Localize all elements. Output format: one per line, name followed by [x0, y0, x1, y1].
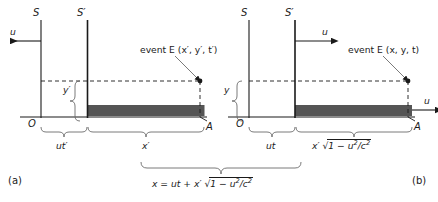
label-velocity-b-top: u	[322, 27, 328, 36]
label-event-a: event E (x′, y′, t′)	[140, 45, 217, 54]
label-total-equation: x = ut + x′ √1 − u2/c2	[152, 178, 253, 188]
figure-canvas	[0, 0, 438, 202]
label-yprime-a: y′	[63, 85, 71, 94]
label-Sprime-b: S′	[285, 8, 294, 18]
brace-xprime-a	[88, 127, 204, 137]
equation-radicand-lead: 1 −	[210, 178, 229, 189]
label-point-A-a: A	[206, 122, 213, 132]
panel-a-graphics	[10, 20, 207, 137]
label-point-A-b: A	[414, 122, 421, 132]
contracted-den-sup: 2	[366, 139, 370, 147]
label-segment-contracted: x′ √1 − u2/c2	[312, 140, 371, 150]
event-dot-b	[406, 79, 411, 84]
label-origin-a: O	[28, 119, 36, 129]
label-velocity-a: u	[10, 27, 16, 36]
brace-ut-b	[249, 127, 295, 137]
equation-lhs: x = ut + x′	[152, 178, 201, 189]
equation-den-sup: 2	[248, 177, 252, 185]
shaded-bar-a	[88, 105, 205, 116]
brace-total-x	[141, 162, 301, 174]
equation-radicand: 1 − u2/c2	[209, 177, 253, 189]
brace-contracted-b	[296, 127, 412, 137]
event-dot-a	[198, 79, 203, 84]
brace-y-b	[232, 81, 242, 121]
label-origin-b: O	[236, 119, 244, 129]
panel-tag-a: (a)	[8, 176, 22, 186]
label-segment-xprime: x′	[142, 141, 150, 150]
contracted-prefix: x′	[312, 140, 320, 151]
label-velocity-b-bottom: u	[424, 96, 430, 105]
panel-tag-b: (b)	[412, 176, 426, 186]
label-event-b: event E (x, y, t)	[348, 45, 419, 54]
relativity-figure: S S′ u event E (x′, y′, t′) y′ O A ut′ x…	[0, 0, 438, 202]
contracted-radicand-lead: 1 −	[328, 140, 347, 151]
event-leader-b	[383, 56, 405, 78]
brace-ut-prime-a	[41, 127, 87, 137]
label-segment-ut-prime: ut′	[56, 141, 68, 150]
label-segment-ut: ut	[266, 141, 275, 150]
label-Sprime-a: S′	[77, 8, 86, 18]
label-S-a: S	[33, 8, 39, 18]
event-leader-a	[175, 56, 197, 78]
brace-yprime-a	[70, 81, 80, 121]
label-S-b: S	[241, 8, 247, 18]
label-y-b: y	[224, 85, 229, 94]
contracted-radicand: 1 − u2/c2	[327, 139, 371, 151]
shaded-bar-b	[295, 105, 412, 116]
